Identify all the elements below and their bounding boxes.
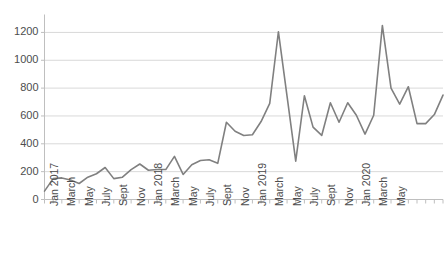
x-tick-label: March [274, 176, 285, 205]
chart-plot-area [0, 0, 445, 265]
x-tick-label: March [66, 176, 77, 205]
y-tick-label: 1200 [14, 26, 38, 37]
x-tick-label: May [188, 186, 199, 206]
x-tick-label: Jan 2019 [257, 162, 268, 205]
x-tick-label: July [205, 187, 216, 206]
y-tick-marks [41, 32, 45, 199]
y-tick-label: 400 [20, 138, 38, 149]
x-tick-label: Nov [136, 187, 147, 206]
gridlines [45, 32, 444, 199]
x-tick-label: Jan 2017 [49, 162, 60, 205]
y-tick-label: 0 [32, 194, 38, 205]
x-tick-label: March [378, 176, 389, 205]
x-tick-label: Nov [240, 187, 251, 206]
y-tick-label: 200 [20, 166, 38, 177]
x-tick-label: Jan 2018 [153, 162, 164, 205]
data-series-line [45, 25, 444, 191]
y-tick-label: 800 [20, 82, 38, 93]
x-tick-label: July [309, 187, 320, 206]
x-tick-label: May [292, 186, 303, 206]
y-tick-label: 600 [20, 110, 38, 121]
x-tick-label: May [396, 186, 407, 206]
y-tick-label: 1000 [14, 54, 38, 65]
x-tick-label: Sept [118, 184, 129, 206]
x-tick-label: March [170, 176, 181, 205]
x-tick-label: July [101, 187, 112, 206]
x-tick-label: Jan 2020 [361, 162, 372, 205]
line-chart: 020040060080010001200 Jan 2017MarchMayJu… [0, 0, 445, 265]
x-tick-label: Sept [222, 184, 233, 206]
x-tick-label: Sept [326, 184, 337, 206]
x-tick-label: May [84, 186, 95, 206]
x-tick-label: Nov [344, 187, 355, 206]
